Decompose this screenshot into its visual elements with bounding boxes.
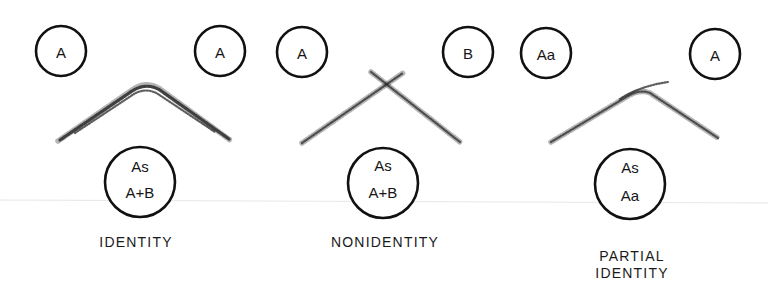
well-label-line-2: A+B [369,184,398,201]
panel-identity: A A As A+B IDENTITY [36,26,245,250]
well-top-left: A [36,26,86,76]
well-top-right: B [443,27,493,77]
well-label: Aa [537,46,556,63]
well-top-left: Aa [521,28,571,78]
panel-caption: NONIDENTITY [331,234,439,250]
panel-partial-identity: Aa A As Aa PARTIAL IDENTITY [521,28,740,281]
precipitin-arc-with-spur [551,82,718,142]
well-label-line-1: As [374,157,392,174]
well-label: A [56,44,66,61]
well-label-line-2: A+B [126,184,155,201]
well-label-line-1: As [621,159,639,176]
immunodiffusion-figure: A A As A+B IDENTITY A B As [0,0,768,289]
panel-caption: IDENTITY [99,234,172,250]
precipitin-arc-identity [58,85,230,141]
well-top-right: A [690,29,740,79]
panel-nonidentity: A B As A+B NONIDENTITY [277,27,493,250]
well-label: B [463,45,473,62]
well-bottom-antiserum: As A+B [105,147,175,217]
well-top-left: A [277,27,327,77]
well-label: A [297,45,307,62]
well-label-line-1: As [131,158,149,175]
well-bottom-antiserum: As A+B [348,148,418,218]
well-label: A [710,47,720,64]
well-label: A [215,44,225,61]
precipitin-lines-crossing [302,72,460,143]
panel-caption-line-1: PARTIAL [599,248,664,264]
well-top-right: A [195,26,245,76]
panel-caption-line-2: IDENTITY [595,265,668,281]
well-bottom-antiserum: As Aa [595,149,665,219]
well-label-line-2: Aa [621,187,640,204]
